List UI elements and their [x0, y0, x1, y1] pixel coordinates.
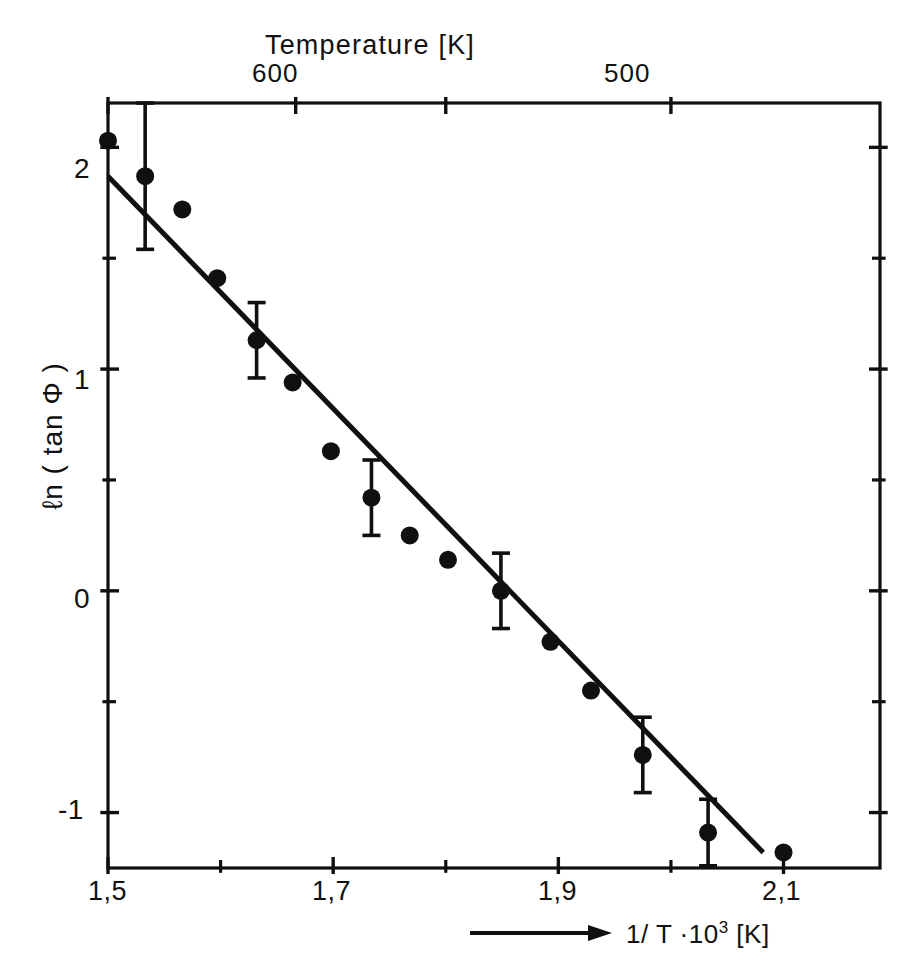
data-point-marker — [401, 526, 419, 544]
data-point-marker — [284, 373, 302, 391]
data-point-marker — [439, 551, 457, 569]
data-point-marker — [492, 582, 510, 600]
data-points — [99, 132, 793, 862]
plot-canvas — [0, 0, 922, 979]
data-point-marker — [362, 489, 380, 507]
data-point-marker — [99, 132, 117, 150]
data-point-marker — [775, 843, 793, 861]
plot-border — [108, 103, 880, 868]
axis-ticks — [100, 97, 887, 874]
error-bars — [136, 103, 717, 866]
data-point-marker — [322, 442, 340, 460]
data-point-marker — [173, 200, 191, 218]
fit-line — [108, 176, 763, 852]
data-point-marker — [541, 633, 559, 651]
arrow-head — [588, 925, 612, 941]
data-point-marker — [136, 167, 154, 185]
data-point-marker — [248, 331, 266, 349]
x-axis-arrow-icon — [470, 925, 612, 941]
fit-line-segment — [108, 176, 763, 852]
data-point-marker — [634, 746, 652, 764]
chart-figure: Temperature [K] 600 500 2 1 0 -1 1,5 1,7… — [0, 0, 922, 979]
axis-frame — [108, 103, 880, 868]
data-point-marker — [208, 269, 226, 287]
data-point-marker — [582, 682, 600, 700]
data-point-marker — [699, 824, 717, 842]
